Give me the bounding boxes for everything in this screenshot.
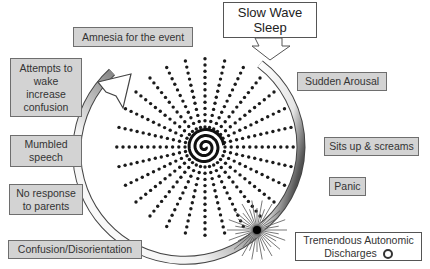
step-autonomic-discharges: Tremendous Autonomic Discharges [295,232,422,261]
step-attempts-wake: Attempts to wake increase confusion [10,58,82,117]
step-label: Confusion/Disorientation [18,243,132,256]
step-label: Amnesia for the event [82,31,184,44]
step-label: Attempts to wake increase confusion [14,62,78,114]
spiral-icon [189,130,224,162]
step-label-wrap: Tremendous Autonomic Discharges [298,234,419,260]
step-label: Panic [334,180,360,193]
step-label: No response to parents [12,187,80,213]
step-label: Mumbled speech [19,138,73,164]
slow-wave-sleep-box: Slow Wave Sleep [223,2,317,38]
step-mumbled-speech: Mumbled speech [10,135,82,167]
step-label: Tremendous Autonomic Discharges [303,234,414,259]
circle-icon [383,249,393,259]
step-panic: Panic [329,177,366,196]
step-label: Sits up & screams [329,140,414,153]
down-arrow-icon [252,38,290,60]
step-no-response: No response to parents [9,184,83,215]
step-confusion-disorientation: Confusion/Disorientation [8,240,142,259]
dotted-rays [115,57,295,237]
step-amnesia: Amnesia for the event [73,27,193,47]
step-label: Sudden Arousal [305,75,379,88]
slow-wave-sleep-label: Slow Wave Sleep [224,5,316,35]
step-sudden-arousal: Sudden Arousal [297,72,387,91]
step-sits-up-screams: Sits up & screams [324,137,419,156]
